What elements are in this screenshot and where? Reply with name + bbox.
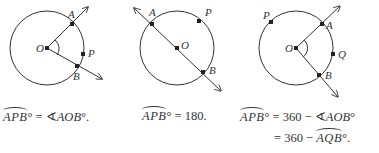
point-p [197, 19, 201, 23]
equation-minor-arc: APB° = ∢AOB°. [3, 109, 89, 125]
angle-symbol: ∢ [315, 110, 326, 124]
angle-aob: AOB [57, 110, 81, 124]
equals: = [171, 109, 184, 123]
label-p: P [87, 47, 95, 59]
angle-symbol: ∢ [46, 110, 57, 124]
arc-apb: APB [142, 109, 166, 124]
equals: = [32, 110, 45, 124]
value-180: 180. [185, 109, 207, 123]
arc-aqb: AQB [316, 131, 342, 146]
point-o [45, 46, 49, 50]
point-o [175, 46, 179, 50]
label-p: P [204, 6, 212, 18]
arc-apb: APB [240, 110, 264, 125]
angle-mark [303, 40, 308, 57]
point-q [331, 52, 335, 56]
equals: = [269, 110, 282, 124]
equation-semicircle: APB° = 180. [142, 109, 207, 124]
point-b [317, 73, 321, 77]
equation-major-arc-line1: APB° = 360 − ∢AOB° [240, 109, 355, 125]
point-a [70, 22, 74, 26]
point-b [75, 64, 79, 68]
label-o: O [36, 42, 44, 54]
point-p [81, 52, 85, 56]
suffix: °. [81, 110, 89, 124]
label-p: P [262, 9, 270, 21]
label-b: B [73, 70, 80, 82]
label-q: Q [338, 48, 346, 60]
degree-sign: ° [350, 110, 355, 124]
label-a: A [148, 6, 156, 18]
point-a [150, 22, 154, 26]
panel-minor-arc [10, 7, 102, 85]
angle-aob: AOB [326, 110, 350, 124]
point-o [294, 46, 298, 50]
label-b: B [209, 64, 216, 76]
arc-apb: APB [3, 110, 27, 125]
equals-360-minus: = 360 − [274, 131, 316, 145]
label-a: A [67, 8, 75, 20]
point-b [201, 70, 205, 74]
label-b: B [325, 69, 332, 81]
label-a: A [325, 19, 333, 31]
ray-oa [296, 6, 340, 48]
minus-360: 360 − [283, 110, 315, 124]
equation-major-arc-line2: = 360 − AQB°. [274, 131, 350, 146]
point-a [320, 22, 324, 26]
label-o: O [181, 39, 189, 51]
label-o: O [285, 42, 293, 54]
suffix: °. [342, 131, 350, 145]
